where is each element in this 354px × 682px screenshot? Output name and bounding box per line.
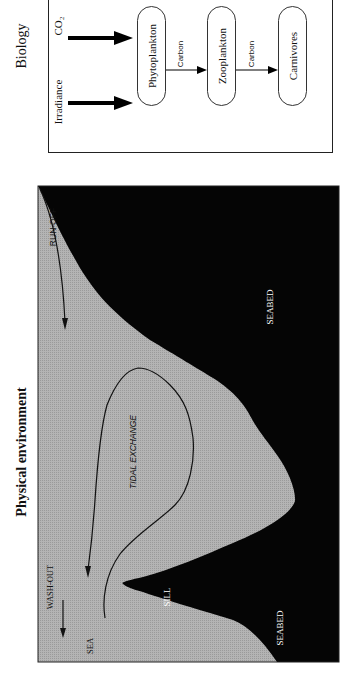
sill-label: SILL [162, 588, 172, 607]
seabed-lower-label: SEABED [275, 610, 285, 645]
seabed-upper-label: SEABED [265, 289, 275, 324]
wash-out-label: WASH-OUT [45, 565, 55, 609]
run-off-label: RUN-OFF [48, 208, 58, 246]
tidal-exchange-label: TIDAL EXCHANGE [128, 415, 138, 489]
sea-label: SEA [85, 638, 95, 654]
